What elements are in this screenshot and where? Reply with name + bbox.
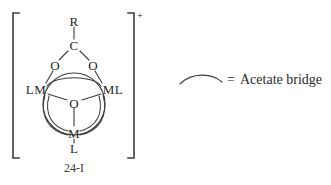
bond-oxygen-right-to-metal-right <box>95 71 102 83</box>
structure-drawing <box>0 0 331 185</box>
bond-metal-left-to-oxygen-center <box>48 94 67 100</box>
atom-label-metal-left: LM <box>26 83 47 96</box>
chemical-structure-figure: R C O O LM ML O M L + 24-I = Acetate bri… <box>0 0 331 185</box>
right-bracket-icon <box>128 13 134 158</box>
atom-label-oxygen-right: O <box>88 59 98 72</box>
legend-equals-sign: = <box>227 73 235 87</box>
bond-metal-right-to-oxygen-center <box>82 94 101 100</box>
atom-label-metal-right: ML <box>103 83 124 96</box>
acetate-bridge-arc-icon <box>180 75 222 84</box>
atom-label-carbon: C <box>70 39 79 52</box>
compound-label: 24-I <box>64 162 84 174</box>
atom-label-metal-bottom: M <box>68 127 80 140</box>
atom-label-oxygen-left: O <box>50 59 60 72</box>
atom-label-oxygen-center: O <box>69 97 79 110</box>
atom-label-ligand-bottom: L <box>70 142 78 155</box>
atom-label-r-group: R <box>70 15 79 28</box>
legend-description: Acetate bridge <box>240 73 322 87</box>
left-bracket-icon <box>13 13 19 158</box>
bond-oxygen-left-to-metal-left <box>46 71 53 83</box>
charge-superscript: + <box>137 11 143 21</box>
bond-c-to-oxygen-left <box>59 51 68 60</box>
